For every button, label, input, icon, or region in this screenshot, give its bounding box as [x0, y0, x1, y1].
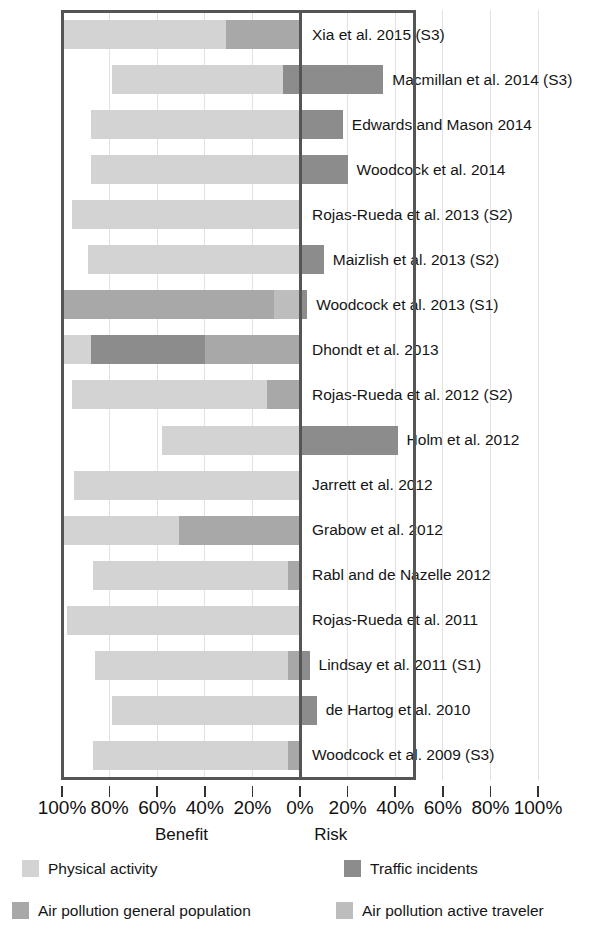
bar-row-label: Holm et al. 2012: [407, 432, 520, 448]
legend-item: Air pollution general population: [12, 902, 251, 919]
legend-item: Air pollution active traveler: [336, 902, 544, 919]
axis-tick-label: 0%: [286, 798, 313, 817]
axis-tick: [537, 786, 539, 797]
risk-frame: [299, 10, 416, 780]
axis-tick: [394, 786, 396, 797]
plot-frame: [61, 10, 302, 780]
plot-area: Xia et al. 2015 (S3)Macmillan et al. 201…: [0, 0, 598, 790]
bar-row-label: Macmillan et al. 2014 (S3): [392, 72, 572, 88]
legend-swatch: [344, 860, 361, 877]
x-axis: 100%80%60%40%20%0%20%40%60%80%100% Benef…: [0, 786, 598, 846]
legend-label: Air pollution active traveler: [362, 903, 544, 919]
axis-tick: [252, 786, 254, 797]
axis-tick-label: 40%: [186, 798, 224, 817]
chart-root: Xia et al. 2015 (S3)Macmillan et al. 201…: [0, 0, 598, 946]
axis-tick-label: 100%: [514, 798, 563, 817]
legend-swatch: [336, 902, 353, 919]
axis-tick-label: 80%: [91, 798, 129, 817]
legend-item: Physical activity: [22, 860, 157, 877]
axis-tick: [61, 786, 63, 797]
axis-label-benefit: Benefit: [155, 826, 208, 843]
axis-tick-label: 20%: [329, 798, 367, 817]
axis-tick: [109, 786, 111, 797]
axis-tick: [347, 786, 349, 797]
axis-tick: [490, 786, 492, 797]
legend-label: Traffic incidents: [370, 861, 478, 877]
axis-tick-label: 40%: [376, 798, 414, 817]
axis-tick: [204, 786, 206, 797]
legend-label: Physical activity: [48, 861, 157, 877]
axis-tick: [299, 786, 301, 797]
axis-tick-label: 80%: [471, 798, 509, 817]
axis-tick-label: 100%: [38, 798, 87, 817]
axis-tick: [156, 786, 158, 797]
axis-tick-label: 60%: [424, 798, 462, 817]
legend-swatch: [12, 902, 29, 919]
axis-label-risk: Risk: [314, 826, 347, 843]
axis-tick-label: 60%: [138, 798, 176, 817]
chart-legend: Physical activityTraffic incidentsAir po…: [0, 860, 598, 946]
legend-item: Traffic incidents: [344, 860, 478, 877]
legend-swatch: [22, 860, 39, 877]
axis-tick: [442, 786, 444, 797]
axis-tick-label: 20%: [233, 798, 271, 817]
legend-label: Air pollution general population: [38, 903, 251, 919]
